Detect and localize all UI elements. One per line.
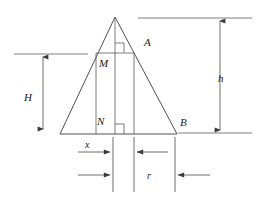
label-point-n: N [96, 115, 105, 127]
label-radius-r: r [147, 170, 151, 181]
label-height-small: h [218, 72, 224, 84]
diagram-canvas: A B M N H h x r [0, 0, 265, 201]
label-point-m: M [98, 57, 109, 69]
label-width-x: x [84, 139, 90, 150]
triangle-outline [60, 17, 177, 134]
label-vertex-a: A [143, 36, 151, 48]
right-angle-mark-lower [115, 124, 124, 134]
label-vertex-b: B [180, 116, 187, 128]
right-angle-mark-upper [115, 43, 124, 53]
geometry-diagram: A B M N H h x r [0, 0, 265, 201]
label-height-big: H [23, 91, 33, 103]
